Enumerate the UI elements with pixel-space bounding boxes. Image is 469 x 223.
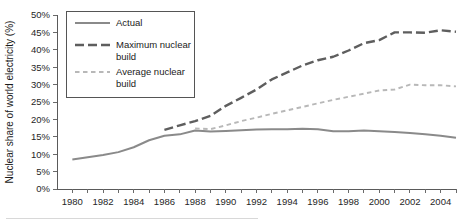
y-tick-label: 45% (31, 27, 51, 38)
y-tick-label: 20% (31, 114, 51, 125)
series-line-1 (164, 30, 456, 130)
x-tick-label: 1990 (215, 196, 236, 207)
chart-container: ActualMaximum nuclearbuildAverage nuclea… (0, 0, 469, 223)
x-tick-label: 1984 (123, 196, 144, 207)
y-tick-label: 30% (31, 79, 51, 90)
x-tick-label: 1988 (185, 196, 206, 207)
y-tick-label: 50% (31, 9, 51, 20)
series-line-2 (195, 85, 456, 130)
y-tick-label: 15% (31, 131, 51, 142)
y-tick-label: 40% (31, 44, 51, 55)
y-tick-label: 0% (36, 183, 50, 194)
legend-label-1: build (116, 51, 136, 62)
x-tick-label: 2002 (399, 196, 420, 207)
x-tick-label: 1986 (154, 196, 175, 207)
legend-label-2: Average nuclear (116, 66, 185, 77)
chart-legend: ActualMaximum nuclearbuildAverage nuclea… (66, 11, 194, 97)
x-tick-label: 1982 (92, 196, 113, 207)
y-tick-label: 5% (36, 166, 50, 177)
x-tick-label: 1992 (246, 196, 267, 207)
legend-label-2: build (116, 78, 136, 89)
x-tick-label: 1994 (277, 196, 298, 207)
y-tick-label: 25% (31, 96, 51, 107)
y-tick-label: 10% (31, 149, 51, 160)
x-tick-label: 1996 (307, 196, 328, 207)
x-tick-label: 1998 (338, 196, 359, 207)
legend-label-0: Actual (116, 17, 142, 28)
legend-label-1: Maximum nuclear (116, 39, 191, 50)
line-chart: ActualMaximum nuclearbuildAverage nuclea… (0, 0, 469, 223)
x-tick-label: 2004 (430, 196, 451, 207)
x-tick-label: 1980 (62, 196, 83, 207)
y-axis-title: Nuclear share of world electricity (%) (4, 21, 15, 184)
series-line-0 (72, 129, 456, 160)
x-tick-label: 2000 (369, 196, 390, 207)
y-tick-label: 35% (31, 62, 51, 73)
